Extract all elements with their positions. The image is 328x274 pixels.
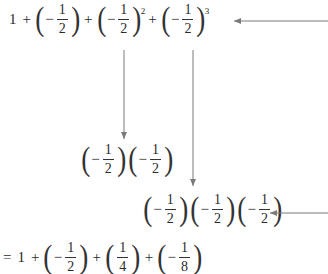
arrows-layer: [0, 0, 328, 274]
